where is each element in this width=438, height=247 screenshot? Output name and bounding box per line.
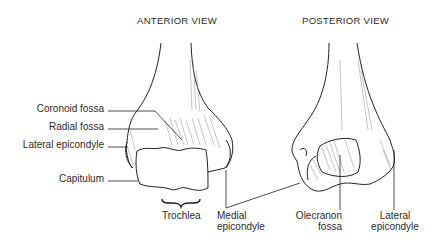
radial-fossa-label: Radial fossa xyxy=(49,121,104,132)
olecranon-fossa-label-2: fossa xyxy=(318,221,342,232)
olecranon-fossa-label-1: Olecranon xyxy=(296,210,342,221)
coronoid-fossa-label: Coronoid fossa xyxy=(37,103,104,114)
trochlea-label: Trochlea xyxy=(162,210,201,221)
lateral-epicondyle-posterior-label-2: epicondyle xyxy=(367,221,423,232)
posterior-hatching xyxy=(310,60,391,180)
posterior-view-title: POSTERIOR VIEW xyxy=(302,15,389,26)
lateral-epicondyle-posterior-label-1: Lateral xyxy=(367,210,423,221)
lateral-epicondyle-anterior-label: Lateral epicondyle xyxy=(23,139,104,150)
anterior-humerus-illustration xyxy=(126,43,233,190)
anterior-view-title: ANTERIOR VIEW xyxy=(137,15,217,26)
capitulum-label: Capitulum xyxy=(59,173,104,184)
medial-epicondyle-label-2: epicondyle xyxy=(217,221,265,232)
medial-epicondyle-label-1: Medial xyxy=(217,210,246,221)
posterior-leader-lines xyxy=(340,150,394,210)
